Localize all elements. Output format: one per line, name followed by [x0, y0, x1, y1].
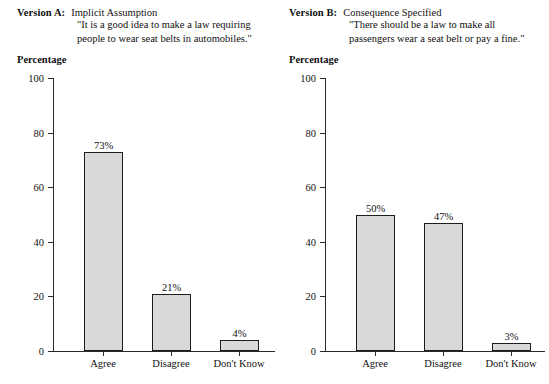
panel-b-version-title: Consequence Specified — [343, 7, 441, 18]
bar-disagree[interactable]: 21% — [152, 294, 191, 351]
panel-b-ytick-60 — [320, 187, 325, 188]
panel-a-ytick-20 — [48, 296, 53, 297]
bar-value-agree: 50% — [366, 203, 385, 214]
panel-a-xcat-disagree: Disagree — [152, 358, 189, 369]
panel-a-xtick-dont-know — [239, 352, 240, 356]
panel-b-plot-area: 0 20 40 60 80 100 50% 47% 3% Agree Disag… — [325, 78, 545, 352]
panel-b-ytick-100 — [320, 78, 325, 79]
panel-b-ytick-0 — [320, 351, 325, 352]
panel-b-ytick-20 — [320, 296, 325, 297]
panel-a-xtick-disagree — [171, 352, 172, 356]
panel-a-header: Version A: Implicit Assumption "It is a … — [17, 7, 272, 45]
panel-b-ylabel-60: 60 — [306, 182, 317, 193]
panel-a-plot-area: 0 20 40 60 80 100 73% 21% 4% Agree Disag… — [53, 78, 275, 352]
panel-a-ylabel-80: 80 — [34, 127, 45, 138]
bar-agree[interactable]: 73% — [84, 152, 123, 351]
bar-value-disagree: 21% — [162, 282, 181, 293]
panel-a-y-axis-title: Percentage — [17, 54, 66, 65]
bar-value-agree: 73% — [94, 140, 113, 151]
panel-b-xtick-agree — [375, 352, 376, 356]
panel-a-version-label: Version A: — [17, 7, 65, 18]
bar-agree[interactable]: 50% — [356, 215, 395, 352]
panel-b-ytick-80 — [320, 133, 325, 134]
bar-dont-know[interactable]: 4% — [220, 340, 259, 351]
panel-b-xtick-dont-know — [511, 352, 512, 356]
panel-b-header-line: Version B: Consequence Specified — [289, 7, 544, 18]
panel-a-ytick-100 — [48, 78, 53, 79]
panel-a-xcat-agree: Agree — [90, 358, 116, 369]
panel-b-version-label: Version B: — [289, 7, 337, 18]
panel-a-ylabel-100: 100 — [28, 73, 44, 84]
panel-b-y-axis-line — [325, 78, 326, 352]
panel-b-ylabel-0: 0 — [311, 346, 316, 357]
panel-a-version-title: Implicit Assumption — [71, 7, 157, 18]
panel-b-xcat-agree: Agree — [362, 358, 388, 369]
bar-value-dont-know: 4% — [233, 328, 247, 339]
panel-b-xcat-disagree: Disagree — [424, 358, 461, 369]
panel-b-y-axis-title: Percentage — [289, 54, 338, 65]
panel-b-xtick-disagree — [443, 352, 444, 356]
panel-a-xcat-dont-know: Don't Know — [213, 358, 264, 369]
panel-a-ylabel-0: 0 — [39, 346, 44, 357]
panel-a-ylabel-20: 20 — [34, 291, 45, 302]
panel-b-xcat-dont-know: Don't Know — [485, 358, 536, 369]
panel-a-ytick-40 — [48, 242, 53, 243]
panel-b-ylabel-80: 80 — [306, 127, 317, 138]
bar-value-dont-know: 3% — [505, 331, 519, 342]
panel-a-quote-line-2: people to wear seat belts in automobiles… — [77, 32, 272, 46]
panel-b-header: Version B: Consequence Specified "There … — [289, 7, 544, 45]
panel-a-y-axis-line — [53, 78, 54, 352]
bar-dont-know[interactable]: 3% — [492, 343, 531, 351]
panel-b-quote-line-2: passengers wear a seat belt or pay a fin… — [349, 32, 544, 46]
panel-a-quote-line-1: "It is a good idea to make a law requiri… — [77, 18, 272, 32]
panel-a-ytick-0 — [48, 351, 53, 352]
panel-a-ylabel-60: 60 — [34, 182, 45, 193]
panel-a-ytick-80 — [48, 133, 53, 134]
panel-a-xtick-agree — [103, 352, 104, 356]
panel-b-quote-line-1: "There should be a law to make all — [349, 18, 544, 32]
panel-b-ylabel-100: 100 — [300, 73, 316, 84]
panel-b-x-axis-line — [325, 351, 545, 352]
bar-value-disagree: 47% — [434, 211, 453, 222]
chart-panel-version-a: Version A: Implicit Assumption "It is a … — [0, 0, 274, 384]
panel-b-ylabel-20: 20 — [306, 291, 317, 302]
bar-disagree[interactable]: 47% — [424, 223, 463, 351]
chart-panel-version-b: Version B: Consequence Specified "There … — [272, 0, 546, 384]
panel-b-ytick-40 — [320, 242, 325, 243]
panel-a-x-axis-line — [53, 351, 275, 352]
panel-a-ytick-60 — [48, 187, 53, 188]
panel-b-ylabel-40: 40 — [306, 236, 317, 247]
panel-a-ylabel-40: 40 — [34, 236, 45, 247]
panel-a-header-line: Version A: Implicit Assumption — [17, 7, 272, 18]
